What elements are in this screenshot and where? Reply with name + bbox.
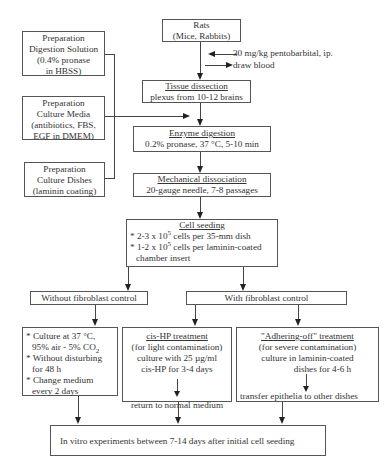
arrow-down-icon [192,319,198,326]
treatment-title: cis-HP treatment [123,331,231,342]
arrow-down-icon [197,212,203,219]
arrow-down-icon [92,319,98,326]
culture-text: 95% air - 5% CO [32,342,96,352]
connector [205,65,227,66]
connector [298,305,299,320]
treatment-result: return to normal medium [123,400,231,411]
arrow-right-icon [226,62,233,68]
arrow-down-icon [197,119,203,126]
seeding-text: * 1-2 x 10 [130,242,168,252]
seeding-text: * 2-3 x 10 [130,231,168,241]
arrow-down-icon [240,284,246,291]
tissue-dissection-box: Tissue dissection plexus from 10-12 brai… [142,80,251,103]
arrow-down-icon [125,284,131,291]
rats-label: Rats [163,20,240,31]
step-detail: 20-gauge needle, 7-8 passages [134,185,270,196]
culture-conditions-box: * Culture at 37 °C, 95% air - 5% CO2 * W… [22,327,118,396]
connector [200,152,201,167]
rats-species: (Mice, Rabbits) [163,31,240,42]
prep-title: Culture Dishes [25,175,104,186]
connector [200,103,201,120]
step-title: Enzyme digestion [134,128,270,139]
cell-seeding-box: Cell seeding * 2-3 x 105 cells per 35-mm… [126,219,278,267]
connector [78,396,79,418]
treatment-detail: culture in laminin-coated [237,353,378,364]
prep-detail: (0.4% pronase [23,55,104,66]
prep-detail: EGF in DMEM) [23,131,104,142]
prep-detail: (laminin coating) [25,186,104,197]
prep-detail: (antibiotics, FBS, [23,120,104,131]
step-detail: plexus from 10-12 brains [143,92,250,103]
arrow-down-icon [197,166,203,173]
arrow-down-icon [197,73,203,80]
with-fibroblast-box: With fibroblast control [186,291,347,305]
prep-title: Culture Media [23,109,104,120]
connector [105,178,114,179]
arrow-down-icon [175,417,181,424]
treatment-detail: dishes for 4-6 h [237,364,378,375]
prep-detail: in HBSS) [23,66,104,77]
connector [95,305,96,320]
treatment-result: transfer epithelia to other dishes [240,391,358,402]
without-fibroblast-box: Without fibroblast control [30,291,148,305]
connector [195,305,196,320]
connector [128,267,129,285]
step-title: Mechanical dissociation [134,174,270,185]
arrow-right-icon [183,113,190,119]
seeding-text: cells per laminin-coated [171,242,262,252]
mechanical-dissociation-box: Mechanical dissociation 20-gauge needle,… [133,173,271,197]
start-box-rats: Rats (Mice, Rabbits) [162,19,241,42]
culture-item-2: * Without disturbing [23,353,117,364]
connector [105,54,114,55]
step-title: Cell seeding [127,220,277,231]
step-detail: 0.2% pronase, 37 °C, 5-10 min [134,139,270,150]
in-vitro-experiments-box: In vitro experiments between 7-14 days a… [50,425,326,456]
prep-label: Preparation [25,164,104,175]
enzyme-digestion-box: Enzyme digestion 0.2% pronase, 37 °C, 5-… [133,126,271,152]
blood-note: draw blood [233,60,275,71]
prep-label: Preparation [23,33,104,44]
treatment-condition: (for severe contamination) [237,342,378,353]
step-title: Tissue dissection [143,81,250,92]
arrow-down-icon [75,417,81,424]
connector [200,42,201,74]
culture-item-2-cont: for 48 h [23,364,117,375]
seeding-item-2-cont: chamber insert [127,253,277,264]
arrow-down-icon [295,319,301,326]
connector [178,402,179,418]
connector [282,402,283,418]
prep-dishes-box: Preparation Culture Dishes (laminin coat… [24,162,105,197]
connector [200,197,201,213]
treatment-detail: culture with 25 µg/ml [123,353,231,364]
arrow-left-icon [208,51,215,57]
treatment-title: "Adhering-off" treatment [237,331,378,342]
prep-digestion-box: Preparation Digestion Solution (0.4% pro… [22,31,105,76]
seeding-item-2: * 1-2 x 105 cells per laminin-coated [127,242,277,253]
treatment-condition: (for light contamination) [123,342,231,353]
anesthesia-note: 30 mg/kg pentobarbital, ip. [233,48,333,59]
seeding-item-1: * 2-3 x 105 cells per 35-mm dish [127,231,277,242]
treatment-detail: cis-HP for 3-4 days [123,364,231,375]
arrow-down-icon [174,391,180,397]
culture-item-3-cont: every 2 days [23,386,117,397]
culture-item-1: * Culture at 37 °C, [23,331,117,342]
prep-label: Preparation [23,98,104,109]
culture-item-3: * Change medium [23,375,117,386]
connector [243,267,244,285]
prep-title: Digestion Solution [23,44,104,55]
culture-item-1-cont: 95% air - 5% CO2 [23,342,117,353]
connector [105,116,184,117]
arrow-down-icon [279,417,285,424]
prep-media-box: Preparation Culture Media (antibiotics, … [22,96,105,140]
seeding-text: cells per 35-mm dish [171,231,251,241]
